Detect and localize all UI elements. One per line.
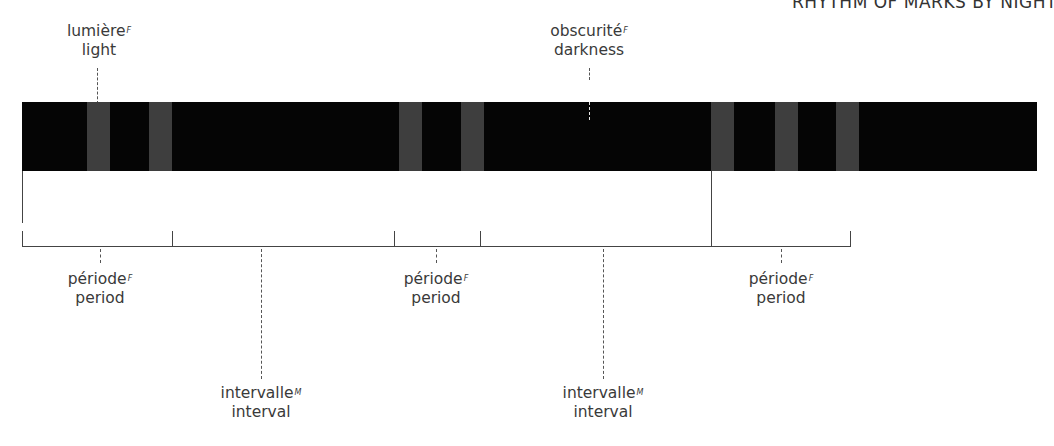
light-flash bbox=[775, 102, 798, 171]
label-interval-1: intervalleM interval bbox=[221, 384, 302, 422]
cycle-mark-line bbox=[711, 171, 712, 246]
leader-period-1 bbox=[100, 249, 101, 263]
label-period-3: périodeF period bbox=[749, 270, 814, 308]
light-flash bbox=[711, 102, 734, 171]
label-period-1: périodeF period bbox=[68, 270, 133, 308]
light-rhythm-bar bbox=[22, 102, 1037, 171]
light-flash bbox=[836, 102, 859, 171]
leader-darkness-inner bbox=[589, 102, 590, 120]
leader-interval-1 bbox=[261, 249, 262, 379]
label-period-2: périodeF period bbox=[404, 270, 469, 308]
label-light: lumièreF light bbox=[67, 22, 131, 60]
leader-period-3 bbox=[781, 249, 782, 263]
leader-darkness-top bbox=[589, 68, 590, 80]
bracket-tick bbox=[394, 231, 395, 246]
cycle-start-line bbox=[22, 171, 23, 223]
light-flash bbox=[149, 102, 172, 171]
light-flash bbox=[87, 102, 110, 171]
bracket-tick bbox=[850, 231, 851, 246]
page-title: RHYTHM OF MARKS BY NIGHT bbox=[792, 0, 1054, 12]
bracket-line bbox=[22, 246, 851, 247]
bracket-tick bbox=[172, 231, 173, 246]
leader-period-2 bbox=[436, 249, 437, 263]
light-flash bbox=[461, 102, 484, 171]
leader-light bbox=[97, 68, 98, 104]
bracket-tick bbox=[22, 231, 23, 246]
label-interval-2: intervalleM interval bbox=[563, 384, 644, 422]
leader-interval-2 bbox=[603, 249, 604, 379]
label-darkness: obscuritéF darkness bbox=[550, 22, 628, 60]
bracket-tick bbox=[480, 231, 481, 246]
light-flash bbox=[399, 102, 422, 171]
